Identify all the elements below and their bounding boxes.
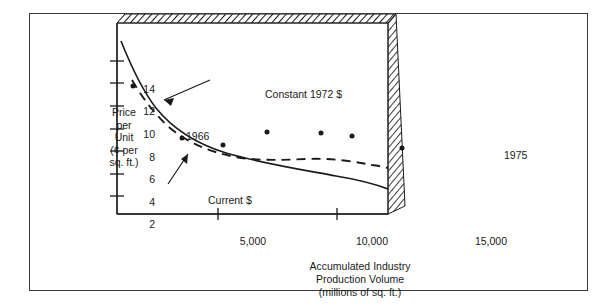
data-point [131, 84, 136, 89]
chart-plot-area [30, 14, 430, 254]
annotation-arrow-constant [164, 80, 210, 106]
figure-frame: Price per Unit (¢ per sq. ft.) 14 12 10 … [29, 13, 588, 291]
plot-frame-front [117, 23, 388, 214]
data-point [180, 136, 185, 141]
series-constant-1972-curve [121, 41, 388, 189]
x-axis-title-line-3: (millions of sq. ft.) [240, 286, 480, 299]
x-axis-title-line-2: Production Volume [240, 273, 480, 286]
annotation-year-1975: 1975 [504, 149, 527, 161]
slab-top-face [117, 14, 396, 23]
data-point [400, 146, 405, 151]
screenshot-page: Price per Unit (¢ per sq. ft.) 14 12 10 … [0, 0, 613, 307]
data-point [319, 131, 324, 136]
x-axis-title: Accumulated Industry Production Volume (… [240, 260, 480, 299]
x-tick-label-15000: 15,000 [467, 235, 515, 247]
annotation-arrow-current [168, 154, 188, 184]
data-point-markers [131, 84, 431, 152]
data-point [265, 130, 270, 135]
data-point [221, 143, 226, 148]
slab-right-face [388, 14, 405, 214]
x-axis-title-line-1: Accumulated Industry [240, 260, 480, 273]
data-point [350, 134, 355, 139]
